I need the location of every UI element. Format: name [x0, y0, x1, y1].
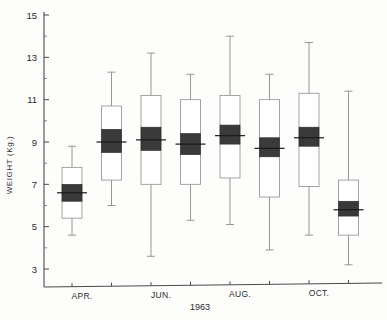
y-tick-label: 5	[32, 221, 37, 232]
x-tick-label: APR.	[71, 291, 92, 301]
y-tick-label: 3	[32, 264, 37, 275]
x-axis-title: 1963	[190, 302, 210, 312]
y-axis-title: WEIGHT (Kg.)	[5, 136, 14, 195]
y-tick-label: 9	[32, 137, 37, 148]
x-tick-label: JUN.	[151, 290, 171, 300]
x-tick-label: OCT.	[309, 288, 330, 298]
y-tick-label: 13	[26, 52, 37, 63]
y-tick-label: 7	[32, 179, 37, 190]
figure-container: WEIGHT (Kg.) 3579111315 APR.JUN.AUG.OCT.…	[0, 0, 387, 320]
x-tick-label: AUG.	[229, 289, 251, 299]
box-plot-chart: WEIGHT (Kg.) 3579111315 APR.JUN.AUG.OCT.…	[0, 0, 387, 320]
y-tick-label: 15	[26, 10, 37, 21]
y-tick-label: 11	[27, 94, 37, 105]
